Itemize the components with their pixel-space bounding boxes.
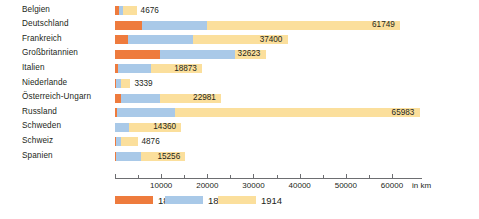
bar-segment-1874: [115, 123, 129, 132]
bar-segment-1874: [115, 152, 141, 161]
plot-area: 4676617493740032623188733339229816598314…: [115, 0, 425, 172]
category-label-column: BelgienDeutschlandFrankreichGroßbritanni…: [0, 0, 110, 170]
legend-color-swatch: [218, 196, 256, 204]
x-axis-tick-major: [161, 174, 162, 178]
bar-value-label: 22981: [193, 93, 216, 102]
category-label: Russland: [22, 108, 110, 116]
x-axis-line: [115, 178, 422, 179]
category-label: Frankreich: [22, 35, 110, 43]
bar-segment-1850: [115, 50, 160, 59]
x-axis-tick-major: [207, 174, 208, 178]
x-axis-tick-label: 60000: [381, 181, 403, 190]
x-axis-tick-label: 50000: [335, 181, 357, 190]
category-label: Belgien: [22, 6, 110, 14]
category-label: Deutschland: [22, 20, 110, 28]
bar-segment-1850: [115, 21, 142, 30]
bar-segment-1850: [115, 6, 119, 15]
bar-segment-1874: [115, 64, 151, 73]
category-label: Schweiz: [22, 137, 110, 145]
x-axis-tick-minor: [277, 175, 278, 178]
bar-value-label: 4676: [141, 6, 159, 15]
bar-segment-1874: [115, 94, 160, 103]
x-axis-unit-label: in km: [412, 181, 431, 190]
category-label: Spanien: [22, 152, 110, 160]
x-axis-tick-major: [300, 174, 301, 178]
category-label: Italien: [22, 64, 110, 72]
bar-value-label: 4876: [142, 137, 160, 146]
x-axis-tick-minor: [184, 175, 185, 178]
category-label: Schweden: [22, 122, 110, 130]
bar-segment-1850: [115, 35, 128, 44]
category-label: Großbritannien: [22, 49, 110, 57]
x-axis-tick-label: 40000: [289, 181, 311, 190]
bar-segment-1850: [115, 94, 121, 103]
category-label: Niederlande: [22, 79, 110, 87]
bar-value-label: 65983: [392, 108, 415, 117]
legend-color-swatch: [165, 196, 203, 204]
bar-value-label: 15256: [157, 152, 180, 161]
bar-value-label: 14360: [153, 122, 176, 131]
bar-value-label: 61749: [372, 20, 395, 29]
bar-segment-1850: [115, 64, 118, 73]
bar-value-label: 18873: [174, 64, 197, 73]
bar-segment-1874: [115, 79, 121, 88]
legend-item-1914[interactable]: 1914: [218, 194, 282, 206]
x-axis-tick-major: [253, 174, 254, 178]
x-axis-tick-label: 30000: [242, 181, 264, 190]
x-axis-tick-minor: [369, 175, 370, 178]
legend-color-swatch: [115, 196, 153, 204]
bar-segment-1850: [115, 79, 116, 88]
bar-value-label: 32623: [238, 49, 261, 58]
x-axis-tick-label: 10000: [150, 181, 172, 190]
bar-value-label: 37400: [260, 35, 283, 44]
x-axis-tick-label: 20000: [196, 181, 218, 190]
x-axis-tick-major: [392, 174, 393, 178]
bar-segment-1874: [115, 137, 121, 146]
x-axis-tick-major: [346, 174, 347, 178]
legend-label: 1914: [261, 195, 282, 206]
x-axis-tick-minor: [323, 175, 324, 178]
bar-segment-1850: [115, 108, 117, 117]
x-axis-tick-major: [115, 174, 116, 178]
bar-segment-1874: [115, 108, 175, 117]
bar-value-label: 3339: [134, 79, 152, 88]
category-label: Österreich-Ungarn: [22, 93, 110, 101]
stacked-bar-chart: BelgienDeutschlandFrankreichGroßbritanni…: [0, 0, 479, 219]
x-axis-tick-minor: [230, 175, 231, 178]
x-axis: 100002000030000400005000060000in km: [115, 178, 435, 179]
x-axis-tick-minor: [138, 175, 139, 178]
